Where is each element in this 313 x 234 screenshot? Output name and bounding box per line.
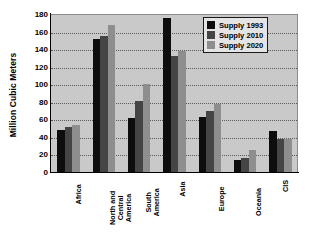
chart-legend: Supply 1993Supply 2010Supply 2020 [203,17,268,53]
x-axis-category-labels: AfricaNorth and Central AmericaSouth Ame… [51,174,298,234]
bar [277,139,285,172]
y-tick-label: 80 [39,97,48,106]
bar [284,139,292,172]
bar [241,158,249,172]
x-axis-line [50,172,299,173]
bar [108,25,116,172]
y-tick-label: 120 [35,62,48,71]
y-axis-title: Million Cubic Meters [0,0,26,190]
x-category-label: Asia [178,182,186,197]
bar [128,118,136,172]
bar [178,51,186,172]
legend-item: Supply 2010 [207,30,263,40]
bar-chart: Million Cubic Meters 0204060801001201401… [0,0,313,234]
y-tick-label: 140 [35,45,48,54]
bar [65,127,73,172]
y-tick-label: 160 [35,27,48,36]
bar [72,125,80,172]
bar-group [128,15,151,172]
y-tick-label: 20 [39,150,48,159]
bar [135,101,143,172]
bar-group [163,15,186,172]
bar-group [269,15,292,172]
x-category-label: South America [145,188,161,216]
legend-swatch-icon [207,31,215,39]
legend-item: Supply 2020 [207,40,263,50]
bar-group [57,15,80,172]
y-tick-label: 60 [39,115,48,124]
bar [234,160,242,172]
bar [269,131,277,172]
bar [93,39,101,172]
y-tick-label: 100 [35,80,48,89]
x-category-label: Oceania [255,188,263,216]
y-axis-title-text: Million Cubic Meters [8,53,18,138]
bar [100,36,108,172]
x-category-label: Europe [218,186,226,211]
bar [249,150,257,172]
legend-swatch-icon [207,41,215,49]
legend-swatch-icon [207,21,215,29]
y-tick-label: 180 [35,10,48,19]
bar [206,111,214,172]
bar [57,130,65,172]
bar [171,56,179,172]
legend-item: Supply 1993 [207,20,263,30]
y-tick-label: 40 [39,132,48,141]
x-category-label: North and Central America [109,191,133,225]
legend-label: Supply 2020 [219,41,263,50]
bar [214,104,222,172]
x-category-label: CIS [282,180,290,192]
y-tick-label: 0 [44,168,48,177]
x-category-label: Africa [75,184,83,204]
bar [199,117,207,172]
bar [143,84,151,172]
y-axis-tick-labels: 020406080100120140160180 [26,14,50,172]
legend-label: Supply 1993 [219,21,263,30]
legend-label: Supply 2010 [219,31,263,40]
bar [163,18,171,172]
bar-group [93,15,116,172]
